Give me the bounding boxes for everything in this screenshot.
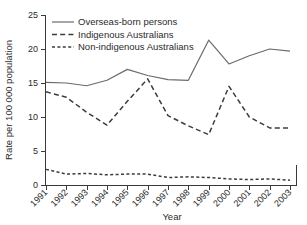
y-tick-label: 20 xyxy=(28,44,38,54)
x-tick-label: 1995 xyxy=(110,187,131,208)
x-tick-label: 1992 xyxy=(49,187,70,208)
legend-label-2: Indigenous Australians xyxy=(78,29,174,40)
y-tick-label: 25 xyxy=(28,10,38,20)
x-tick-group: 1991199219931994199519961997199819992000… xyxy=(28,186,293,209)
y-tick-label: 5 xyxy=(33,146,38,156)
legend-label-1: Overseas-born persons xyxy=(78,16,178,27)
chart-container: 0510152025 19911992199319941995199619971… xyxy=(0,0,307,225)
x-tick-label: 1993 xyxy=(69,187,90,208)
x-tick-label: 1997 xyxy=(150,187,171,208)
series-line-3 xyxy=(46,169,290,180)
x-tick-label: 2003 xyxy=(272,187,293,208)
x-tick-label: 2001 xyxy=(232,187,253,208)
y-tick-group: 0510152025 xyxy=(28,10,46,190)
y-tick-label: 10 xyxy=(28,112,38,122)
y-tick-label: 0 xyxy=(33,180,38,190)
line-chart: 0510152025 19911992199319941995199619971… xyxy=(0,0,307,225)
x-tick-label: 1991 xyxy=(28,187,49,208)
x-tick-label: 1999 xyxy=(191,187,212,208)
series-group xyxy=(46,40,290,180)
x-axis-title: Year xyxy=(162,211,181,222)
x-tick-label: 1996 xyxy=(130,187,151,208)
x-tick-label: 1994 xyxy=(89,187,110,208)
x-tick-label: 2002 xyxy=(252,187,273,208)
series-line-2 xyxy=(46,79,290,135)
y-axis-title: Rate per 100 000 population xyxy=(3,40,14,160)
x-tick-label: 1998 xyxy=(171,187,192,208)
chart-legend: Overseas-born personsIndigenous Australi… xyxy=(52,16,194,52)
legend-label-3: Non-indigenous Australians xyxy=(78,41,194,52)
y-tick-label: 15 xyxy=(28,78,38,88)
x-tick-label: 2000 xyxy=(211,187,232,208)
